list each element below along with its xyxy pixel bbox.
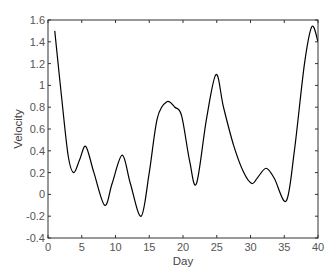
y-axis-ticks: -0.4-0.200.20.40.60.811.21.41.6	[26, 14, 318, 244]
x-tick-label: 25	[211, 241, 223, 253]
x-axis-ticks: 0510152025303540	[45, 20, 324, 253]
y-tick-label: 0.4	[30, 145, 45, 157]
y-tick-label: 1	[39, 79, 45, 91]
y-tick-label: -0.2	[26, 210, 45, 222]
y-tick-label: 1.6	[30, 14, 45, 26]
y-tick-label: 1.2	[30, 58, 45, 70]
axes-frame	[48, 20, 318, 238]
x-tick-label: 15	[143, 241, 155, 253]
x-tick-label: 35	[278, 241, 290, 253]
y-tick-label: 0.6	[30, 123, 45, 135]
x-tick-label: 0	[45, 241, 51, 253]
y-axis-label: Velocity	[12, 109, 24, 149]
y-tick-label: 1.4	[30, 36, 45, 48]
y-tick-label: 0.8	[30, 101, 45, 113]
x-axis-label: Day	[173, 255, 194, 267]
x-tick-label: 5	[79, 241, 85, 253]
x-tick-label: 30	[244, 241, 256, 253]
y-tick-label: -0.4	[26, 232, 45, 244]
velocity-line	[55, 26, 318, 216]
x-tick-label: 10	[109, 241, 121, 253]
plot-area	[55, 26, 318, 216]
y-tick-label: 0	[39, 188, 45, 200]
y-tick-label: 0.2	[30, 167, 45, 179]
x-tick-label: 20	[177, 241, 189, 253]
line-chart: 0510152025303540 -0.4-0.200.20.40.60.811…	[0, 0, 336, 275]
x-tick-label: 40	[312, 241, 324, 253]
